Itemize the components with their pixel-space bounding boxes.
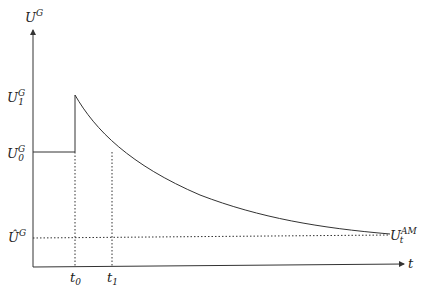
level-u1-label: UG1 xyxy=(7,88,24,107)
uhat-dotted-line xyxy=(33,235,390,238)
signal-curve xyxy=(33,95,390,234)
x-axis xyxy=(33,264,404,267)
end-label-uam: UAMt xyxy=(390,226,403,245)
x-axis-label: t xyxy=(408,256,413,271)
plot-canvas xyxy=(0,0,424,290)
tick-t1-label: t1 xyxy=(107,270,118,287)
level-u0-label: UG0 xyxy=(7,144,24,163)
tick-t0-label: t0 xyxy=(70,270,81,287)
level-uhat-label: ÛG xyxy=(8,228,26,245)
y-axis-label: UG xyxy=(25,8,43,25)
